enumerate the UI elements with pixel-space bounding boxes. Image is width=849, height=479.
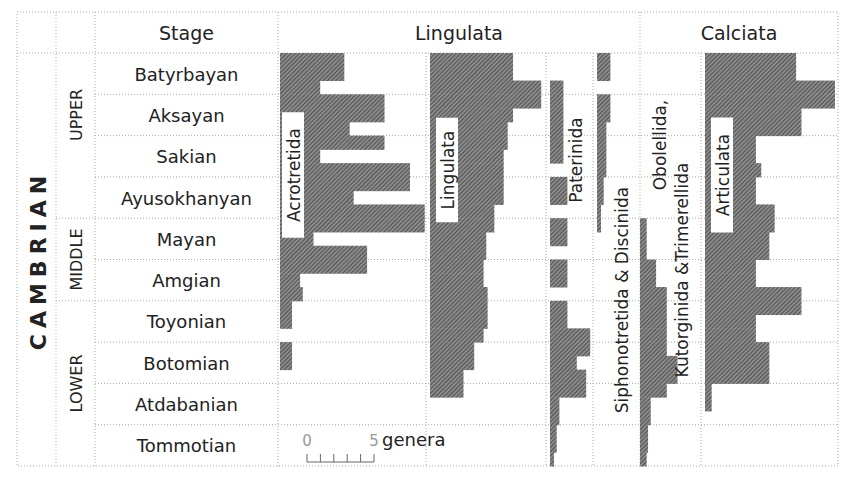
series-lingulata xyxy=(430,53,541,398)
column-label: Articulata xyxy=(711,118,733,233)
series-division-label: LOWER xyxy=(67,354,86,412)
group-header: Lingulata xyxy=(415,22,503,44)
stage-label: Ayusokhanyan xyxy=(121,188,252,209)
period-label: CAMBRIAN xyxy=(26,170,51,350)
svg-text:Lingulata: Lingulata xyxy=(438,131,458,210)
svg-text:Acrotretida: Acrotretida xyxy=(284,128,304,222)
svg-text:Obolellida,: Obolellida, xyxy=(650,100,670,191)
series-division-label: MIDDLE xyxy=(67,228,86,290)
column-label: Lingulata xyxy=(436,118,458,223)
stage-label: Botomian xyxy=(143,353,229,374)
stage-label: Batyrbayan xyxy=(134,64,238,85)
stage-label: Atdabanian xyxy=(135,394,238,415)
scale-max-label: 5 xyxy=(369,432,379,450)
stage-label: Mayan xyxy=(157,229,217,250)
column-label: Siphonotretida & Discinida xyxy=(612,187,632,414)
stage-label: Sakian xyxy=(156,146,216,167)
histogram-bars xyxy=(280,53,835,467)
svg-text:Kutorginida &Trimerellida: Kutorginida &Trimerellida xyxy=(672,163,692,378)
stage-label: Toyonian xyxy=(146,311,226,332)
series-siphonotretida-discinida xyxy=(597,53,610,232)
column-label: Paterinida xyxy=(566,117,586,202)
group-header: Calciata xyxy=(701,22,778,44)
svg-text:Siphonotretida & Discinida: Siphonotretida & Discinida xyxy=(612,187,632,414)
column-label: Acrotretida xyxy=(282,112,304,238)
column-label: Obolellida, xyxy=(650,100,670,191)
stage-header: Stage xyxy=(159,22,214,44)
scale-unit-label: genera xyxy=(382,429,445,450)
series-division-label: UPPER xyxy=(67,89,86,141)
stage-label: Amgian xyxy=(152,270,221,291)
stage-label: Aksayan xyxy=(148,105,224,126)
scale-min-label: 0 xyxy=(302,432,312,450)
column-label: Kutorginida &Trimerellida xyxy=(672,163,692,378)
svg-text:Paterinida: Paterinida xyxy=(566,117,586,202)
stratigraphic-range-chart: StageLingulataCalciataBatyrbayanAksayanS… xyxy=(0,0,849,479)
svg-text:Articulata: Articulata xyxy=(713,134,733,216)
stage-label: Tommotian xyxy=(136,435,237,456)
